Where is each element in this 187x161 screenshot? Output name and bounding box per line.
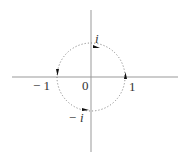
- complex-plane-diagram: 0 1 − 1 i − i: [0, 0, 187, 161]
- arrow-right-up-icon: [124, 72, 127, 79]
- pos-imag-label: i: [95, 31, 99, 46]
- neg-real-label: − 1: [33, 78, 50, 93]
- diagram-svg: 0 1 − 1 i − i: [0, 0, 187, 161]
- origin-label: 0: [82, 78, 89, 93]
- neg-imag-label: − i: [68, 110, 84, 125]
- arrow-left-down-icon: [56, 69, 59, 76]
- pos-real-label: 1: [129, 79, 136, 94]
